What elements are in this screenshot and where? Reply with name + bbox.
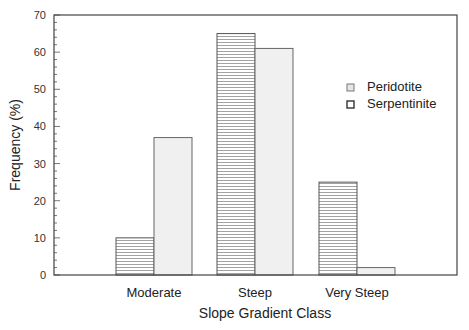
bar-peridotite [255, 48, 293, 275]
y-tick-label: 30 [34, 158, 46, 170]
legend-label-serpentinite: Serpentinite [367, 96, 436, 111]
bar-peridotite [357, 268, 395, 275]
bars [116, 34, 395, 275]
x-category-label: Very Steep [325, 285, 389, 300]
y-tick-label: 40 [34, 120, 46, 132]
legend-marker-peridotite [347, 84, 354, 91]
x-axis-categories: ModerateSteepVery Steep [127, 285, 389, 300]
y-tick-label: 20 [34, 195, 46, 207]
y-axis-label: Frequency (%) [7, 99, 23, 191]
legend: Peridotite Serpentinite [347, 79, 436, 111]
x-axis-label: Slope Gradient Class [199, 305, 331, 321]
bar-serpentinite [217, 34, 255, 275]
x-category-label: Steep [238, 285, 272, 300]
y-tick-label: 10 [34, 232, 46, 244]
bar-peridotite [154, 138, 192, 275]
y-tick-label: 60 [34, 46, 46, 58]
y-tick-label: 70 [34, 9, 46, 21]
bar-serpentinite [116, 238, 154, 275]
legend-label-peridotite: Peridotite [367, 79, 422, 94]
bar-chart: 010203040506070 ModerateSteepVery Steep … [0, 0, 469, 330]
x-category-label: Moderate [127, 285, 182, 300]
y-tick-label: 50 [34, 83, 46, 95]
y-tick-label: 0 [40, 269, 46, 281]
bar-serpentinite [319, 182, 357, 275]
legend-marker-serpentinite [347, 101, 354, 108]
y-axis-ticks: 010203040506070 [34, 9, 60, 281]
